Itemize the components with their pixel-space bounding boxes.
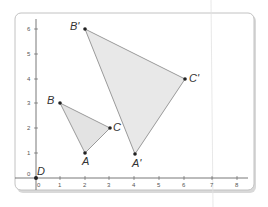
- point-C: [108, 126, 112, 130]
- point-C-prime: [183, 77, 187, 81]
- label-B-prime: B': [70, 20, 80, 32]
- point-B: [58, 101, 62, 105]
- label-C-prime: C': [189, 72, 200, 84]
- coordinate-plane: 0 1 2 3 4 5 6 0 1 2 3 4 5 6 7 8: [0, 0, 268, 207]
- label-D: D: [37, 165, 45, 177]
- point-A-prime: [133, 152, 137, 156]
- label-B: B: [47, 94, 54, 106]
- label-A: A: [81, 155, 89, 167]
- label-C: C: [113, 121, 121, 133]
- point-B-prime: [83, 27, 87, 31]
- label-A-prime: A': [131, 157, 142, 169]
